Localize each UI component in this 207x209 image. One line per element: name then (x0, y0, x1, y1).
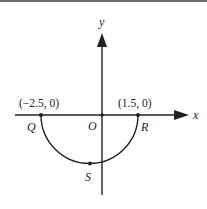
point-r-label: R (140, 120, 149, 134)
x-axis-label: x (192, 108, 199, 122)
point-q-label: Q (27, 120, 36, 134)
y-axis-arrow-icon (97, 33, 107, 47)
point-r (136, 113, 140, 117)
coordinate-diagram: y x O (−2.5, 0) (1.5, 0) Q R S (0, 0, 207, 209)
x-axis-arrow-icon (174, 110, 189, 120)
point-origin (100, 113, 104, 117)
point-q-coordinates: (−2.5, 0) (19, 97, 59, 110)
point-s (88, 162, 92, 166)
origin-label: O (88, 119, 97, 133)
point-s-label: S (85, 170, 91, 184)
y-axis-label: y (98, 15, 105, 29)
point-r-coordinates: (1.5, 0) (118, 97, 152, 110)
point-q (39, 113, 43, 117)
